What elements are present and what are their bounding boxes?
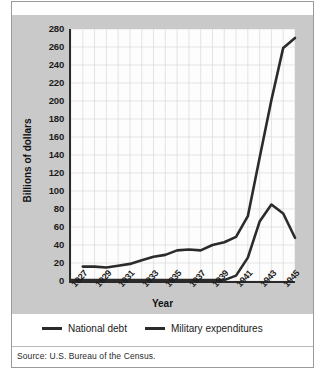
y-tick-label: 160 (49, 132, 64, 142)
series-line (83, 38, 295, 268)
y-tick-label: 100 (49, 186, 64, 196)
y-tick-label: 0 (59, 276, 64, 286)
y-tick-label: 140 (49, 150, 64, 160)
legend-entry[interactable]: Military expenditures (145, 323, 263, 334)
military-expenditures-swatch (145, 327, 165, 330)
chart-legend: National debtMilitary expenditures (12, 314, 313, 346)
y-tick-label: 280 (49, 24, 64, 34)
legend-entry[interactable]: National debt (42, 323, 127, 334)
plot-area (71, 29, 295, 283)
y-tick-label: 80 (54, 204, 64, 214)
legend-label: Military expenditures (171, 323, 263, 334)
data-series-layer (71, 29, 295, 281)
y-tick-label: 40 (54, 240, 64, 250)
y-tick-label: 20 (54, 258, 64, 268)
x-axis-title: Year (12, 298, 313, 309)
source-divider (12, 346, 313, 347)
y-tick-label: 200 (49, 96, 64, 106)
figure-top-band (12, 2, 313, 15)
y-tick-label: 180 (49, 114, 64, 124)
y-tick-label: 240 (49, 60, 64, 70)
source-note: Source: U.S. Bureau of the Census. (17, 351, 307, 361)
y-axis-title: Billions of dollars (22, 101, 33, 221)
chart-figure-card: 020406080100120140160180200220240260280 … (11, 1, 314, 368)
y-axis-tick-labels: 020406080100120140160180200220240260280 (12, 15, 68, 314)
national-debt-swatch (42, 327, 62, 330)
legend-entries: National debtMilitary expenditures (42, 323, 263, 334)
y-tick-label: 260 (49, 42, 64, 52)
y-tick-label: 220 (49, 78, 64, 88)
plot-panel: 020406080100120140160180200220240260280 … (12, 15, 313, 314)
legend-label: National debt (68, 323, 127, 334)
y-tick-label: 60 (54, 222, 64, 232)
y-tick-label: 120 (49, 168, 64, 178)
